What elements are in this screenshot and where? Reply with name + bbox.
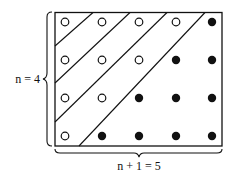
rows-label: n = 4: [15, 72, 40, 86]
filled-dot: [172, 132, 180, 140]
filled-dot: [172, 56, 180, 64]
grid-frame: [55, 13, 222, 147]
filled-dot: [98, 132, 106, 140]
open-dot: [61, 18, 69, 26]
open-dot: [135, 56, 143, 64]
open-dot: [61, 132, 69, 140]
cols-label: n + 1 = 5: [117, 159, 161, 173]
open-dot: [98, 18, 106, 26]
diagonal-lines: [55, 13, 205, 147]
filled-dot: [208, 94, 216, 102]
filled-dot: [135, 94, 143, 102]
diagonal-line-1: [55, 13, 93, 47]
dot-grid: [61, 18, 216, 140]
filled-dot: [135, 132, 143, 140]
open-dot: [172, 18, 180, 26]
open-dot: [61, 94, 69, 102]
bottom-brace: [55, 149, 222, 157]
open-dot: [61, 56, 69, 64]
filled-dot: [208, 56, 216, 64]
open-dot: [135, 18, 143, 26]
left-brace: [43, 12, 52, 146]
filled-dot: [172, 94, 180, 102]
dot-diagram: n = 4 n + 1 = 5: [0, 0, 233, 179]
diagonal-line-4: [79, 13, 205, 147]
filled-dot: [208, 132, 216, 140]
open-dot: [98, 56, 106, 64]
open-dot: [98, 94, 106, 102]
filled-dot: [208, 18, 216, 26]
